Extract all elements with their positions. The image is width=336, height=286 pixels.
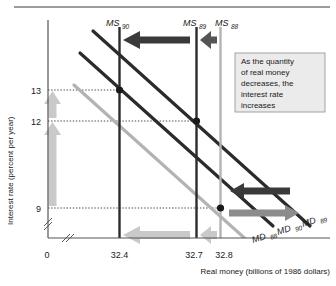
supply-shift-arrow-top-short	[200, 31, 217, 49]
label-ms89-sub: 89	[199, 23, 207, 30]
label-ms90-sub: 90	[122, 23, 130, 30]
annotation-line-4: interest rate	[241, 90, 284, 99]
y-tick-label-12: 12	[31, 117, 41, 127]
label-md89-sub: 89	[319, 216, 328, 225]
y-tick-label-9: 9	[36, 204, 41, 214]
annotation-line-1: As the quantity	[241, 57, 294, 66]
label-ms88-sub: 88	[231, 23, 239, 30]
label-ms89-text: MS	[183, 18, 197, 28]
label-ms90: MS 90	[106, 18, 130, 30]
label-ms90-text: MS	[106, 18, 120, 28]
curve-md88	[74, 85, 250, 243]
annotation-line-2: of real money	[241, 68, 289, 77]
supply-shift-arrow-bottom-short	[200, 226, 217, 244]
supply-shift-arrow-top-long	[123, 31, 190, 49]
label-ms88-text: MS	[215, 18, 229, 28]
label-md90-text: MD	[276, 223, 293, 237]
x-tick-label-32-8: 32.8	[215, 250, 233, 260]
interest-rate-arrow-lower	[44, 122, 61, 206]
y-axis-title: Interest rate (percent per year)	[6, 116, 15, 225]
x-tick-label-32-4: 32.4	[111, 250, 129, 260]
label-md88-text: MD	[251, 231, 268, 245]
label-ms88: MS 88	[215, 18, 239, 30]
annotation-line-3: decreases, the	[241, 79, 294, 88]
money-market-chart: 13 12 9 0 32.4 32.7 32.8 Interest rate (…	[0, 0, 336, 286]
annotation-box: As the quantity of real money decreases,…	[235, 53, 325, 112]
x-tick-label-32-7: 32.7	[185, 250, 203, 260]
annotation-line-5: increases	[241, 101, 275, 110]
supply-shift-arrow-bottom-long	[123, 226, 190, 244]
equilibrium-dot-2	[193, 117, 200, 124]
interest-rate-arrow-upper	[44, 91, 61, 118]
label-ms89: MS 89	[183, 18, 207, 30]
equilibrium-dot-3	[217, 204, 224, 211]
x-axis-title: Real money (billions of 1986 dollars)	[201, 267, 331, 276]
equilibrium-dot-1	[116, 86, 123, 93]
gridlines	[48, 90, 221, 208]
label-md90: MD 90	[276, 219, 304, 238]
label-md89: MD 89	[301, 211, 329, 230]
y-tick-label-13: 13	[31, 86, 41, 96]
label-md89-text: MD	[301, 215, 318, 229]
x-origin-label: 0	[44, 250, 49, 260]
label-md88: MD 88	[251, 227, 279, 246]
